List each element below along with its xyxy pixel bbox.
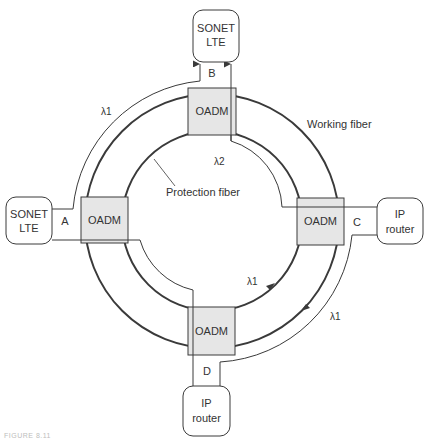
oadm-top[interactable]: OADM bbox=[188, 88, 236, 135]
endpoint-left-sonet-lte[interactable]: SONET LTE bbox=[6, 197, 52, 244]
lightpath-c-to-b bbox=[231, 64, 377, 207]
wavelength-label-protection-bottom: λ1 bbox=[247, 276, 258, 287]
endpoint-right-ip-router[interactable]: IP router bbox=[377, 198, 423, 244]
port-label-a: A bbox=[61, 215, 69, 227]
endpoint-left-line1: SONET bbox=[10, 208, 48, 220]
optical-ring-diagram: OADM OADM OADM OADM SONET LTE SONET LTE … bbox=[0, 0, 430, 444]
oadm-left-label: OADM bbox=[88, 214, 121, 226]
wavelength-label-protection-top: λ2 bbox=[214, 156, 225, 167]
protection-fiber-label: Protection fiber bbox=[166, 186, 240, 198]
endpoint-bottom-ip-router[interactable]: IP router bbox=[183, 386, 230, 436]
wavelength-label-ab: λ1 bbox=[101, 106, 112, 117]
direction-arrow-working bbox=[301, 304, 310, 311]
working-fiber-label: Working fiber bbox=[307, 118, 372, 130]
protection-fiber-leader bbox=[154, 159, 175, 186]
oadm-top-label: OADM bbox=[196, 105, 229, 117]
oadm-bottom[interactable]: OADM bbox=[188, 307, 235, 355]
port-label-c: C bbox=[353, 216, 361, 228]
endpoint-top-line2: LTE bbox=[206, 36, 225, 48]
oadm-right[interactable]: OADM bbox=[297, 198, 344, 245]
oadm-right-label: OADM bbox=[304, 215, 337, 227]
endpoint-right-line2: router bbox=[386, 223, 415, 235]
lightpath-a-to-d bbox=[52, 240, 193, 395]
endpoint-top-sonet-lte[interactable]: SONET LTE bbox=[193, 10, 239, 62]
oadm-bottom-label: OADM bbox=[195, 325, 228, 337]
endpoint-top-line1: SONET bbox=[197, 22, 235, 34]
endpoint-bottom-line2: router bbox=[192, 412, 221, 424]
oadm-left[interactable]: OADM bbox=[81, 197, 128, 243]
endpoint-left-line2: LTE bbox=[19, 222, 38, 234]
figure-caption: FIGURE 8.11 bbox=[4, 432, 51, 439]
port-label-b: B bbox=[208, 67, 215, 79]
wavelength-label-cd: λ1 bbox=[330, 311, 341, 322]
port-label-d: D bbox=[203, 365, 211, 377]
endpoint-right-line1: IP bbox=[395, 208, 405, 220]
endpoint-bottom-line1: IP bbox=[201, 397, 211, 409]
protection-fiber-ring bbox=[122, 131, 302, 311]
